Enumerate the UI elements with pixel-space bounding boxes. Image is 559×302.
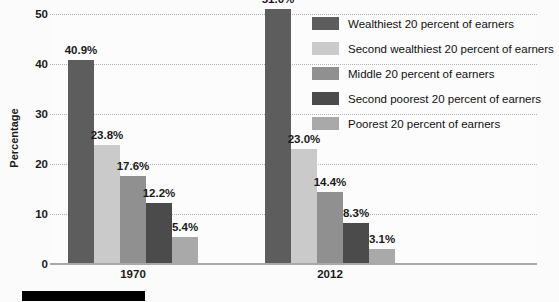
- legend-label-0: Wealthiest 20 percent of earners: [348, 18, 514, 30]
- legend-item-3: Second poorest 20 percent of earners: [312, 86, 554, 111]
- x-group-label-2012: 2012: [317, 268, 343, 280]
- value-label-2012-3: 8.3%: [343, 207, 369, 219]
- bar-1970-second-poorest: [146, 203, 172, 264]
- bar-1970-poorest: [172, 237, 198, 264]
- bar-2012-poorest: [369, 249, 395, 265]
- x-axis-line: [50, 263, 537, 265]
- y-axis-title: Percentage: [8, 88, 20, 188]
- legend-label-4: Poorest 20 percent of earners: [348, 118, 500, 130]
- y-tick-10: 10: [4, 208, 48, 220]
- legend-item-4: Poorest 20 percent of earners: [312, 111, 554, 136]
- legend-swatch-icon-0: [312, 17, 339, 30]
- legend-item-1: Second wealthiest 20 percent of earners: [312, 36, 554, 61]
- y-tick-0: 0: [4, 258, 48, 270]
- value-label-2012-4: 3.1%: [369, 233, 395, 245]
- bar-2012-middle: [317, 192, 343, 264]
- legend-item-0: Wealthiest 20 percent of earners: [312, 11, 554, 36]
- legend: Wealthiest 20 percent of earners Second …: [312, 11, 554, 136]
- chart-figure: 0 10 20 30 40 50 Percentage 40.9% 23.8% …: [0, 0, 559, 302]
- legend-swatch-icon-2: [312, 67, 339, 80]
- legend-label-3: Second poorest 20 percent of earners: [348, 93, 541, 105]
- bar-2012-second-wealthiest: [291, 149, 317, 264]
- x-group-label-1970: 1970: [120, 268, 146, 280]
- value-label-1970-4: 5.4%: [172, 221, 198, 233]
- legend-item-2: Middle 20 percent of earners: [312, 61, 554, 86]
- value-label-2012-2: 14.4%: [314, 176, 347, 188]
- bar-1970-wealthiest: [68, 60, 94, 265]
- legend-swatch-icon-4: [312, 117, 339, 130]
- bar-2012-second-poorest: [343, 223, 369, 265]
- legend-swatch-icon-3: [312, 92, 339, 105]
- legend-label-1: Second wealthiest 20 percent of earners: [348, 43, 554, 55]
- value-label-1970-1: 23.8%: [91, 129, 124, 141]
- y-tick-50: 50: [4, 8, 48, 20]
- value-label-2012-0: 51.0%: [262, 0, 295, 5]
- footer-black-bar: [22, 291, 145, 301]
- y-tick-40: 40: [4, 58, 48, 70]
- value-label-1970-2: 17.6%: [117, 160, 150, 172]
- legend-swatch-icon-1: [312, 42, 339, 55]
- legend-label-2: Middle 20 percent of earners: [348, 68, 494, 80]
- value-label-1970-3: 12.2%: [143, 187, 176, 199]
- value-label-1970-0: 40.9%: [65, 44, 98, 56]
